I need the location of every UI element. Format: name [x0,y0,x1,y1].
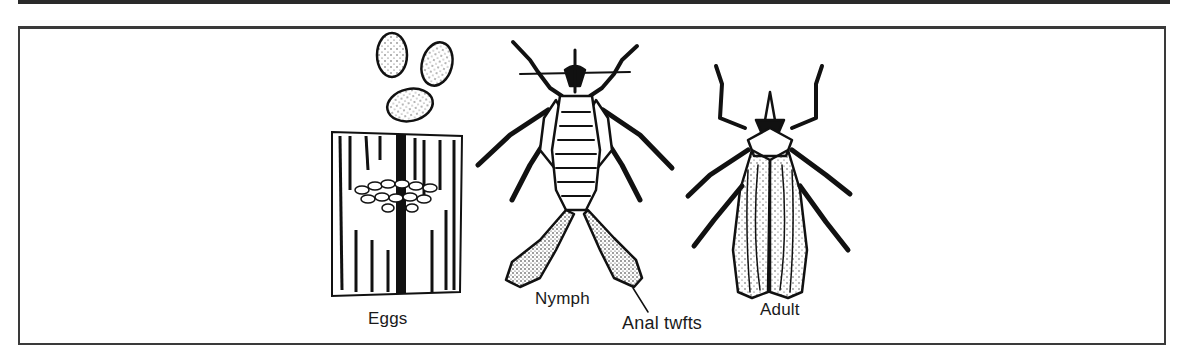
life-cycle-illustration [0,0,1188,364]
label-nymph: Nymph [535,289,590,309]
single-eggs [377,33,457,125]
nymph-drawing [478,42,672,312]
eggs-drawing [332,33,462,296]
label-anal-tufts: Anal twfts [622,313,702,334]
adult-drawing [688,66,850,298]
label-adult: Adult [760,300,800,320]
anal-tufts-pointer [633,288,648,312]
anal-tufts-drawing [506,210,642,287]
leaf-sheath-with-eggs [332,132,462,296]
label-eggs: Eggs [368,309,408,329]
